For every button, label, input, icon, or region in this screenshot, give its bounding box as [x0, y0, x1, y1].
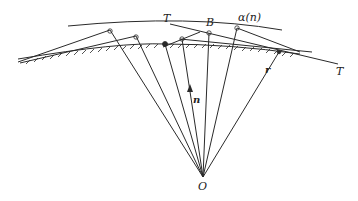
label-origin-o: O: [198, 180, 207, 193]
label-tangent-left: T: [163, 12, 172, 25]
label-curve-alpha: α(n): [238, 11, 261, 24]
geometry-diagram: T B α(n) T n r O: [0, 0, 358, 201]
normal-vector-arrow: [187, 84, 193, 92]
label-radius-r: r: [265, 64, 271, 75]
label-point-b: B: [205, 16, 214, 29]
label-normal-n: n: [193, 94, 200, 105]
label-tangent-right: T: [336, 65, 345, 78]
